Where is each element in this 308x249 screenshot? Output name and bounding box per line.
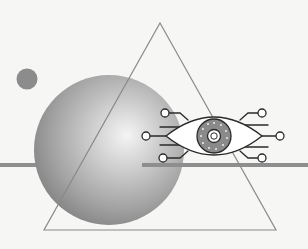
- gradient-sphere: [34, 75, 184, 225]
- illustration-canvas: Surveillance eye illustration: [0, 0, 308, 249]
- illustration-svg: [0, 0, 308, 249]
- pupil-ring: [208, 130, 221, 143]
- small-dot-icon: [17, 69, 38, 90]
- horizontal-bar-right: [142, 163, 308, 167]
